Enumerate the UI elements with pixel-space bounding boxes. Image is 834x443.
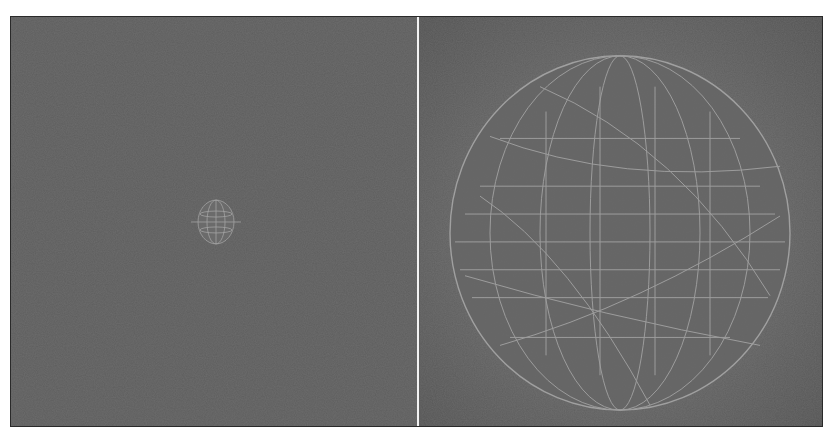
figure-frame xyxy=(10,16,823,427)
large-sphere-wireframe xyxy=(450,56,790,410)
large-wireframe-sphere xyxy=(420,17,822,426)
panel-right-viewport xyxy=(420,17,822,426)
panel-left-viewport xyxy=(11,17,417,426)
panel-divider xyxy=(417,17,419,426)
small-wireframe-sphere xyxy=(11,17,417,426)
